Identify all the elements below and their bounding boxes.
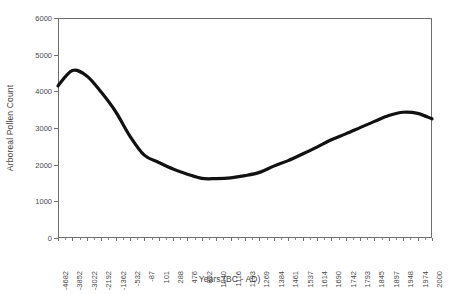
- x-axis-tick-mark: [245, 238, 246, 241]
- x-axis-tick-mark: [389, 238, 390, 241]
- x-axis-tick-mark: [87, 238, 88, 241]
- x-axis-minor-tick-mark: [324, 238, 325, 240]
- x-axis-minor-tick-mark: [367, 238, 368, 240]
- y-axis-title-label: Arboreal Pollen Count: [5, 85, 15, 171]
- x-axis-minor-tick-mark: [195, 238, 196, 240]
- x-axis-minor-tick-mark: [223, 238, 224, 240]
- x-axis-minor-tick-mark: [267, 238, 268, 240]
- x-axis-tick-mark: [159, 238, 160, 241]
- x-axis-tick-mark: [432, 238, 433, 241]
- x-axis-minor-tick-mark: [238, 238, 239, 240]
- x-axis-tick-mark: [303, 238, 304, 241]
- x-axis-tick-mark: [58, 238, 59, 241]
- x-axis-tick-mark: [187, 238, 188, 241]
- x-axis-minor-tick-mark: [425, 238, 426, 240]
- x-axis-minor-tick-mark: [339, 238, 340, 240]
- y-axis-tick-mark: [54, 18, 58, 19]
- x-axis-tick-mark: [173, 238, 174, 241]
- y-axis-tick-label: 0: [48, 234, 52, 243]
- y-axis-tick-label: 3000: [35, 124, 52, 133]
- x-axis-minor-tick-mark: [166, 238, 167, 240]
- y-axis-title: Arboreal Pollen Count: [2, 18, 18, 238]
- y-axis-tick-mark: [54, 165, 58, 166]
- x-axis-tick-mark: [418, 238, 419, 241]
- x-axis-tick-mark: [288, 238, 289, 241]
- x-axis-minor-tick-mark: [353, 238, 354, 240]
- plot-curve-layer: [58, 18, 432, 238]
- x-axis-minor-tick-mark: [123, 238, 124, 240]
- x-axis-tick-mark: [231, 238, 232, 241]
- y-axis-tick-label: 6000: [35, 14, 52, 23]
- x-axis-tick-mark: [403, 238, 404, 241]
- y-axis-tick-label: 2000: [35, 160, 52, 169]
- y-axis-tick-label: 1000: [35, 197, 52, 206]
- x-axis-minor-tick-mark: [65, 238, 66, 240]
- x-axis-minor-tick-mark: [410, 238, 411, 240]
- x-axis-title: Years (BC - AD): [0, 274, 459, 284]
- x-axis-tick-mark: [374, 238, 375, 241]
- pollen-count-chart: Arboreal Pollen Count 010002000300040005…: [0, 0, 459, 295]
- y-axis-tick-label: 5000: [35, 50, 52, 59]
- x-axis-tick-mark: [346, 238, 347, 241]
- y-axis-tick-labels: 0100020003000400050006000: [18, 18, 56, 238]
- x-axis-minor-tick-mark: [108, 238, 109, 240]
- x-axis-minor-tick-mark: [137, 238, 138, 240]
- x-axis-tick-mark: [274, 238, 275, 241]
- x-axis-minor-tick-mark: [396, 238, 397, 240]
- pollen-count-line: [58, 70, 432, 179]
- x-axis-tick-mark: [202, 238, 203, 241]
- x-axis-minor-tick-mark: [180, 238, 181, 240]
- x-axis-minor-tick-mark: [382, 238, 383, 240]
- x-axis-tick-mark: [101, 238, 102, 241]
- x-axis-minor-tick-mark: [152, 238, 153, 240]
- y-axis-tick-mark: [54, 128, 58, 129]
- x-axis-minor-tick-mark: [281, 238, 282, 240]
- x-axis-tick-mark: [360, 238, 361, 241]
- x-axis-tick-mark: [116, 238, 117, 241]
- x-axis-tick-mark: [317, 238, 318, 241]
- x-axis-minor-tick-mark: [252, 238, 253, 240]
- x-axis-minor-tick-mark: [310, 238, 311, 240]
- y-axis-tick-mark: [54, 91, 58, 92]
- x-axis-tick-mark: [259, 238, 260, 241]
- x-axis-tick-mark: [216, 238, 217, 241]
- x-axis-minor-tick-mark: [94, 238, 95, 240]
- x-axis-minor-tick-mark: [209, 238, 210, 240]
- y-axis-tick-mark: [54, 55, 58, 56]
- y-axis-tick-label: 4000: [35, 87, 52, 96]
- x-axis-tick-mark: [144, 238, 145, 241]
- x-axis-minor-tick-mark: [295, 238, 296, 240]
- x-axis-tick-mark: [130, 238, 131, 241]
- x-axis-minor-tick-mark: [80, 238, 81, 240]
- x-axis-tick-labels: -4682-3852-3022-2192-1362-532-8710128847…: [58, 241, 432, 273]
- y-axis-tick-mark: [54, 201, 58, 202]
- x-axis-tick-mark: [72, 238, 73, 241]
- x-axis-tick-mark: [331, 238, 332, 241]
